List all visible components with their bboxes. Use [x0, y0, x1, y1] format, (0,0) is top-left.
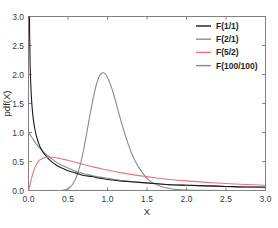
x-tick-label: 0.0 — [23, 194, 35, 204]
curve-f-100-100- — [56, 73, 265, 191]
y-axis-tick-labels: 0.00.51.01.52.02.53.0 — [12, 12, 24, 196]
x-tick-label: 1.0 — [102, 194, 114, 204]
y-tick-label: 2.0 — [12, 70, 24, 80]
x-tick-label: 2.0 — [181, 194, 193, 204]
curve-f-5-2- — [29, 157, 266, 190]
y-tick-label: 0.5 — [12, 157, 24, 167]
y-tick-label: 2.5 — [12, 41, 24, 51]
x-tick-label: 2.5 — [220, 194, 232, 204]
legend-label: F(1/1) — [216, 21, 239, 31]
chart-canvas: 0.00.51.01.52.02.53.0 0.00.51.01.52.02.5… — [0, 0, 278, 228]
x-axis-tick-labels: 0.00.51.01.52.02.53.0 — [23, 194, 272, 204]
legend-label: F(5/2) — [216, 47, 239, 57]
y-axis-title: pdf(X) — [1, 91, 12, 117]
legend-label: F(100/100) — [216, 61, 258, 71]
x-tick-label: 3.0 — [260, 194, 272, 204]
x-tick-label: 0.5 — [62, 194, 74, 204]
y-tick-label: 1.0 — [12, 128, 24, 138]
y-tick-label: 0.0 — [12, 186, 24, 196]
x-axis-title: X — [144, 206, 151, 217]
x-tick-label: 1.5 — [141, 194, 153, 204]
y-tick-label: 1.5 — [12, 99, 24, 109]
legend-label: F(2/1) — [216, 34, 239, 44]
curve-f-2-1- — [29, 133, 266, 188]
f-distribution-pdf-chart: 0.00.51.01.52.02.53.0 0.00.51.01.52.02.5… — [0, 0, 278, 228]
chart-legend: F(1/1)F(2/1)F(5/2)F(100/100) — [196, 21, 258, 71]
y-tick-label: 3.0 — [12, 12, 24, 22]
